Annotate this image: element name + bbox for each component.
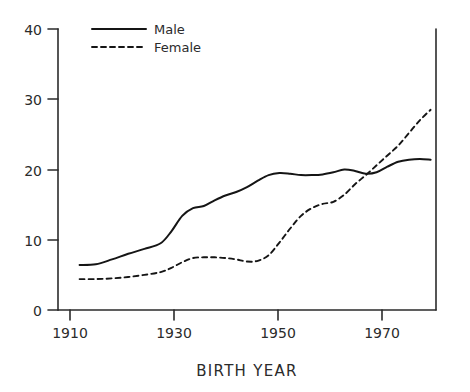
- x-tick-label-1930: 1930: [156, 325, 192, 341]
- legend-label-male: Male: [154, 22, 185, 37]
- x-axis-title: BIRTH YEAR: [196, 362, 298, 380]
- legend-label-female: Female: [154, 40, 201, 55]
- y-tick-marks: [48, 29, 58, 310]
- series-line-female: [80, 110, 431, 279]
- y-tick-label-30: 30: [24, 92, 42, 108]
- series-line-male: [80, 159, 431, 265]
- chart-legend: Male Female: [92, 22, 201, 55]
- y-tick-label-20: 20: [24, 163, 42, 179]
- y-tick-label-40: 40: [24, 22, 42, 38]
- chart-container: 40 30 20 10 0 1910 1930 1950 1970 BIRTH …: [0, 0, 470, 392]
- x-tick-label-1910: 1910: [52, 325, 88, 341]
- x-tick-marks: [70, 310, 382, 320]
- y-tick-label-0: 0: [33, 303, 42, 319]
- line-chart: 40 30 20 10 0 1910 1930 1950 1970 BIRTH …: [0, 0, 470, 392]
- x-tick-label-1950: 1950: [260, 325, 296, 341]
- x-tick-label-1970: 1970: [364, 325, 400, 341]
- y-tick-label-10: 10: [24, 233, 42, 249]
